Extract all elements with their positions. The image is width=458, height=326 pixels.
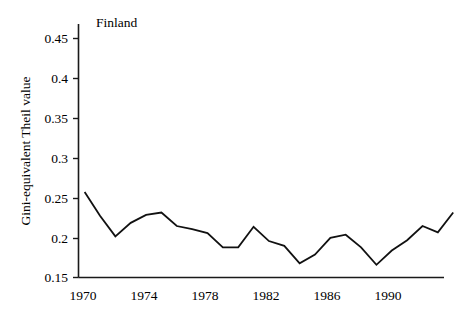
line-chart-canvas: 0.45 0.4 0.35 0.3 0.25 0.2 0.15 1970 197… <box>0 0 458 326</box>
y-tick-label-045: 0.45 <box>44 31 68 46</box>
x-tick-label-1982: 1982 <box>253 288 280 303</box>
x-tick-label-1990: 1990 <box>375 288 402 303</box>
y-tick-label-030: 0.3 <box>51 151 68 166</box>
chart-figure: 0.45 0.4 0.35 0.3 0.25 0.2 0.15 1970 197… <box>0 0 458 326</box>
y-axis-ticks <box>73 39 79 278</box>
x-tick-label-1974: 1974 <box>131 288 158 303</box>
x-tick-label-1986: 1986 <box>314 288 341 303</box>
y-tick-label-025: 0.25 <box>44 191 68 206</box>
y-axis-title: Gini-equivalent Theil value <box>18 77 33 226</box>
y-tick-label-015: 0.15 <box>44 270 68 285</box>
x-tick-label-1970: 1970 <box>70 288 97 303</box>
panel-title: Finland <box>96 15 138 30</box>
series-line-finland <box>85 192 454 265</box>
y-tick-label-040: 0.4 <box>51 71 68 86</box>
y-tick-label-020: 0.2 <box>51 231 68 246</box>
x-axis-tick-labels: 1970 1974 1978 1982 1986 1990 <box>70 288 402 303</box>
y-axis-tick-labels: 0.45 0.4 0.35 0.3 0.25 0.2 0.15 <box>44 31 68 285</box>
x-tick-label-1978: 1978 <box>192 288 219 303</box>
y-tick-label-035: 0.35 <box>44 111 68 126</box>
